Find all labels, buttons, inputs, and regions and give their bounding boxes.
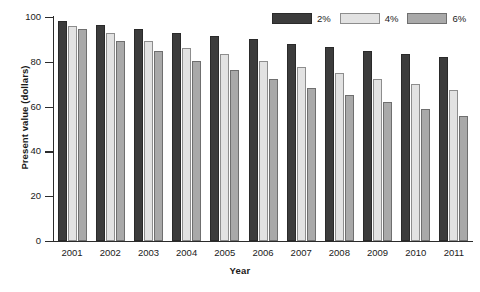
bar-group: [401, 17, 430, 241]
y-axis-tick-label: 40: [0, 145, 41, 156]
bar: [449, 90, 458, 241]
bar: [182, 48, 191, 241]
bar: [210, 36, 219, 241]
bar: [68, 26, 77, 241]
bar: [172, 33, 181, 241]
bar: [335, 73, 344, 241]
legend: 2%4%6%: [272, 13, 466, 24]
legend-item: 2%: [272, 13, 331, 24]
y-axis-tick: [45, 241, 53, 242]
legend-swatch: [407, 13, 447, 24]
y-axis-tick-label: 20: [0, 190, 41, 201]
legend-swatch: [340, 13, 380, 24]
bar: [144, 41, 153, 241]
legend-item: 4%: [340, 13, 399, 24]
bar-chart: Present value (dollars) 020406080100 200…: [0, 0, 480, 292]
y-axis-tick-label: 0: [0, 235, 41, 246]
bar: [439, 57, 448, 241]
bar: [459, 116, 468, 241]
x-axis-title: Year: [0, 265, 480, 276]
bar: [78, 29, 87, 241]
bar: [297, 67, 306, 241]
y-axis-tick-label: 100: [0, 11, 41, 22]
legend-item: 6%: [407, 13, 466, 24]
bar: [401, 54, 410, 241]
bar-group: [58, 17, 87, 241]
bar: [249, 39, 258, 241]
y-axis-tick: [45, 17, 53, 18]
y-axis-title: Present value (dollars): [19, 18, 30, 218]
legend-label: 2%: [317, 13, 331, 24]
bar: [325, 47, 334, 241]
y-axis-tick-label: 60: [0, 101, 41, 112]
bar: [220, 54, 229, 241]
bar: [383, 102, 392, 241]
y-axis-tick-label: 80: [0, 56, 41, 67]
y-axis-tick: [45, 151, 53, 152]
bar: [154, 51, 163, 241]
bar-group: [96, 17, 125, 241]
y-axis-tick: [45, 62, 53, 63]
bar: [269, 79, 278, 241]
bar-group: [363, 17, 392, 241]
plot-area: [53, 17, 473, 241]
bar: [192, 61, 201, 241]
bar-group: [439, 17, 468, 241]
bar: [96, 25, 105, 241]
bar-group: [325, 17, 354, 241]
legend-label: 6%: [452, 13, 466, 24]
bar: [134, 29, 143, 241]
bar: [411, 84, 420, 241]
y-axis-tick: [45, 196, 53, 197]
bar-group: [210, 17, 239, 241]
bar-group: [172, 17, 201, 241]
legend-swatch: [272, 13, 312, 24]
bar: [345, 95, 354, 241]
bar: [106, 33, 115, 241]
bar: [307, 88, 316, 241]
bar: [373, 79, 382, 241]
bar: [363, 51, 372, 241]
bar: [58, 21, 67, 241]
y-axis-tick: [45, 107, 53, 108]
bar: [230, 70, 239, 241]
bar-group: [134, 17, 163, 241]
bar: [287, 44, 296, 241]
x-axis-tick-label: 2011: [431, 247, 477, 258]
bar: [421, 109, 430, 241]
bar-group: [287, 17, 316, 241]
bar: [116, 41, 125, 241]
bar-group: [249, 17, 278, 241]
x-axis-line: [53, 241, 473, 242]
bar: [259, 61, 268, 241]
legend-label: 4%: [385, 13, 399, 24]
